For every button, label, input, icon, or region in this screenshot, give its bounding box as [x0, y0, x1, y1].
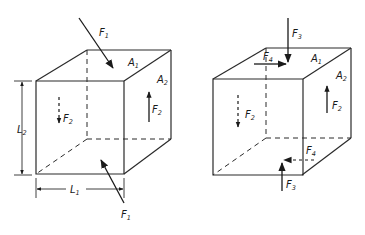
label-f1-top: F1 [99, 27, 109, 40]
label-a2-right: A2 [335, 70, 347, 83]
label-f1-bottom: F1 [121, 209, 131, 222]
label-a1-left: A1 [127, 57, 139, 70]
dimension-l1 [36, 178, 124, 198]
label-f4-top: F4 [263, 51, 273, 64]
shear-force-diagram: F1 A1 A2 F2 F2 L2 L1 F1 F3 F4 A1 A2 F2 F… [0, 0, 365, 235]
label-f2-front-left: F2 [63, 113, 73, 126]
label-f2-side-right: F2 [332, 100, 342, 113]
right-cube [213, 48, 351, 175]
label-f2-front-right: F2 [245, 109, 255, 122]
label-a1-right: A1 [310, 53, 322, 66]
left-f1-bottom-arrow [101, 160, 124, 203]
label-f3-top: F3 [292, 28, 302, 41]
label-a2-left: A2 [156, 74, 168, 87]
label-l2: L2 [17, 124, 27, 137]
label-f3-bottom: F3 [286, 179, 296, 192]
label-l1: L1 [70, 184, 80, 197]
label-f4-bottom: F4 [306, 145, 316, 158]
left-f1-top-arrow [79, 18, 113, 68]
left-cube [36, 50, 171, 174]
label-f2-side-left: F2 [152, 104, 162, 117]
